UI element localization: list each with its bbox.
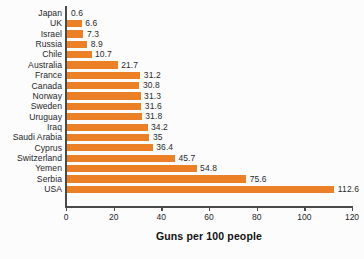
bar-value-label: 35 — [153, 132, 163, 142]
bar-value-label: 30.8 — [143, 80, 160, 90]
x-axis-tick-label: 120 — [345, 212, 359, 222]
bar — [66, 165, 197, 172]
bar-value-label: 7.3 — [87, 29, 99, 39]
category-label: Iraq — [0, 122, 62, 132]
bar-row: 75.6 — [66, 174, 352, 184]
bar-row: 0.6 — [66, 8, 352, 18]
bar-row: 31.6 — [66, 101, 352, 111]
x-axis-tick-label: 0 — [64, 212, 69, 222]
x-axis-tick — [161, 207, 162, 211]
bar — [66, 124, 148, 131]
x-axis-tick-label: 80 — [252, 212, 261, 222]
bar-chart: JapanUKIsraelRussiaChileAustraliaFranceC… — [0, 0, 364, 259]
bar — [66, 82, 139, 89]
category-label: Chile — [0, 49, 62, 59]
x-axis-tick-label: 40 — [157, 212, 166, 222]
bar-row: 7.3 — [66, 29, 352, 39]
bar-row: 36.4 — [66, 143, 352, 153]
bar-row: 31.2 — [66, 70, 352, 80]
category-label: Israel — [0, 29, 62, 39]
bar-row: 45.7 — [66, 153, 352, 163]
category-label: USA — [0, 184, 62, 194]
bar-row: 6.6 — [66, 18, 352, 28]
bar-value-label: 54.8 — [200, 163, 217, 173]
category-label: Sweden — [0, 101, 62, 111]
bar — [66, 92, 141, 99]
bar-value-label: 75.6 — [250, 174, 267, 184]
x-axis-tick-label: 60 — [204, 212, 213, 222]
bar — [66, 30, 83, 37]
bar-value-label: 34.2 — [151, 122, 168, 132]
bar — [66, 72, 140, 79]
bar-row: 21.7 — [66, 60, 352, 70]
x-axis-tick — [66, 207, 67, 211]
bar — [66, 144, 153, 151]
bar-row: 54.8 — [66, 163, 352, 173]
plot-area: 0.66.67.38.910.721.731.230.831.331.631.8… — [66, 8, 352, 205]
category-label: Cyprus — [0, 143, 62, 153]
category-axis-labels: JapanUKIsraelRussiaChileAustraliaFranceC… — [0, 8, 62, 205]
bar — [66, 51, 92, 58]
category-label: France — [0, 70, 62, 80]
bar-row: 31.3 — [66, 91, 352, 101]
bar-value-label: 21.7 — [121, 60, 138, 70]
bar — [66, 134, 149, 141]
bar — [66, 155, 175, 162]
category-label: Norway — [0, 91, 62, 101]
category-label: Yemen — [0, 163, 62, 173]
category-label: UK — [0, 18, 62, 28]
bar-value-label: 31.2 — [144, 70, 161, 80]
bar-value-label: 10.7 — [95, 49, 112, 59]
x-axis-title: Guns per 100 people — [66, 230, 352, 242]
x-axis-tick — [352, 207, 353, 211]
x-axis-tick — [304, 207, 305, 211]
bar-value-label: 31.6 — [145, 101, 162, 111]
bar-value-label: 31.3 — [144, 91, 161, 101]
x-axis-tick — [209, 207, 210, 211]
bar — [66, 113, 142, 120]
category-label: Switzerland — [0, 153, 62, 163]
bar-value-label: 6.6 — [85, 18, 97, 28]
category-label: Australia — [0, 60, 62, 70]
bar-row: 10.7 — [66, 49, 352, 59]
category-label: Canada — [0, 81, 62, 91]
bar-value-label: 45.7 — [178, 153, 195, 163]
bar-value-label: 31.8 — [145, 111, 162, 121]
x-axis-tick — [257, 207, 258, 211]
bar-row: 31.8 — [66, 112, 352, 122]
bar — [66, 41, 87, 48]
x-axis-tick-label: 20 — [109, 212, 118, 222]
category-label: Serbia — [0, 174, 62, 184]
category-label: Saudi Arabia — [0, 132, 62, 142]
bar — [66, 186, 334, 193]
x-axis-tick-label: 100 — [297, 212, 311, 222]
bar-row: 34.2 — [66, 122, 352, 132]
bar-value-label: 8.9 — [91, 39, 103, 49]
category-label: Japan — [0, 8, 62, 18]
bar-row: 30.8 — [66, 81, 352, 91]
x-axis-tick — [114, 207, 115, 211]
bar-row: 112.6 — [66, 184, 352, 194]
y-axis-line — [65, 6, 67, 207]
bar — [66, 103, 141, 110]
category-label: Uruguay — [0, 112, 62, 122]
bar-row: 35 — [66, 132, 352, 142]
bar — [66, 175, 246, 182]
bar-value-label: 0.6 — [71, 8, 83, 18]
bar-value-label: 112.6 — [338, 184, 359, 194]
category-label: Russia — [0, 39, 62, 49]
bar — [66, 61, 118, 68]
bar — [66, 20, 82, 27]
bar-value-label: 36.4 — [156, 142, 173, 152]
bar-row: 8.9 — [66, 39, 352, 49]
